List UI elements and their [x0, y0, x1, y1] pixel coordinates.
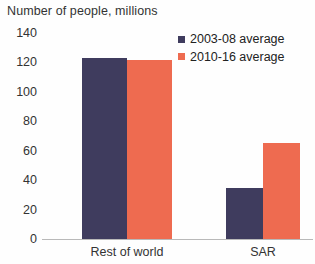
legend-swatch-icon-series-0 — [178, 36, 185, 43]
legend-label-series-0: 2003-08 average — [190, 33, 285, 46]
bar-rest-of-world-series-0 — [82, 58, 127, 239]
bar-rest-of-world-series-1 — [127, 60, 172, 240]
legend-item-series-0[interactable]: 2003-08 average — [178, 33, 285, 46]
x-axis-category-label-rest-of-world: Rest of world — [67, 245, 187, 259]
x-axis-category-label-sar: SAR — [203, 245, 315, 259]
legend-swatch-icon-series-1 — [178, 53, 185, 60]
chart-legend: 2003-08 average 2010-16 average — [178, 33, 285, 68]
x-axis-baseline — [42, 239, 313, 240]
bar-sar-series-0 — [226, 188, 263, 240]
bar-sar-series-1 — [263, 143, 300, 239]
legend-label-series-1: 2010-16 average — [190, 51, 285, 64]
bar-chart: Number of people, millions 0204060801001… — [0, 0, 315, 264]
legend-item-series-1[interactable]: 2010-16 average — [178, 51, 285, 64]
